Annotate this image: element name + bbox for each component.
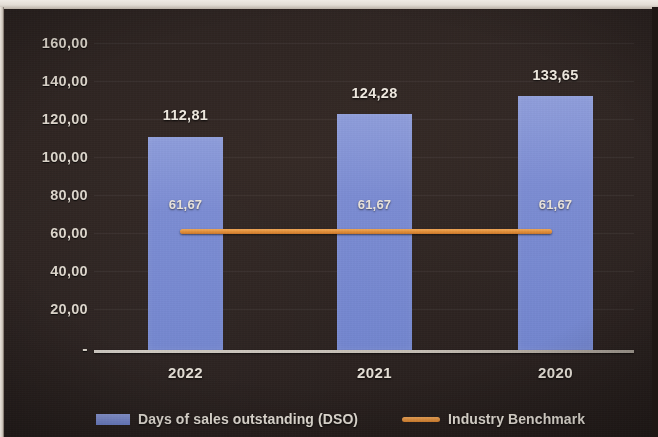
y-tick-60: 60,00 xyxy=(50,225,88,241)
y-tick-140: 140,00 xyxy=(42,73,88,89)
paper-edge-top xyxy=(0,0,658,9)
benchmark-value-2020: 61,67 xyxy=(539,197,573,212)
bar-2020[interactable] xyxy=(518,96,593,350)
industry-benchmark-line[interactable] xyxy=(180,229,552,234)
gridline-160 xyxy=(94,43,634,44)
legend-bar-swatch-icon xyxy=(96,414,130,425)
paper-edge-left xyxy=(0,7,4,437)
legend-item-benchmark[interactable]: Industry Benchmark xyxy=(402,411,585,427)
bar-value-2021: 124,28 xyxy=(351,85,397,101)
chart-screenshot: 160,00 140,00 120,00 100,00 80,00 60,00 … xyxy=(0,0,658,437)
x-tick-2021: 2021 xyxy=(357,364,392,381)
chart-plate: 160,00 140,00 120,00 100,00 80,00 60,00 … xyxy=(4,9,658,437)
plot-area: 160,00 140,00 120,00 100,00 80,00 60,00 … xyxy=(4,9,658,437)
x-tick-2022: 2022 xyxy=(168,364,203,381)
y-tick-100: 100,00 xyxy=(42,149,88,165)
bar-2022[interactable] xyxy=(148,137,223,350)
chart-legend: Days of sales outstanding (DSO) Industry… xyxy=(4,407,658,437)
legend-label-dso: Days of sales outstanding (DSO) xyxy=(138,411,358,427)
y-tick-120: 120,00 xyxy=(42,111,88,127)
y-tick-40: 40,00 xyxy=(50,263,88,279)
bar-value-2020: 133,65 xyxy=(532,67,578,83)
y-tick-80: 80,00 xyxy=(50,187,88,203)
y-axis-labels: 160,00 140,00 120,00 100,00 80,00 60,00 … xyxy=(10,9,88,437)
y-tick-20: 20,00 xyxy=(50,301,88,317)
paper-edge-right xyxy=(652,7,658,437)
benchmark-value-2021: 61,67 xyxy=(358,197,392,212)
legend-label-benchmark: Industry Benchmark xyxy=(448,411,585,427)
x-tick-2020: 2020 xyxy=(538,364,573,381)
y-tick-160: 160,00 xyxy=(42,35,88,51)
legend-line-swatch-icon xyxy=(402,417,440,422)
x-axis-line xyxy=(94,350,634,353)
bar-value-2022: 112,81 xyxy=(163,107,208,123)
legend-item-dso[interactable]: Days of sales outstanding (DSO) xyxy=(96,411,358,427)
y-tick-0: - xyxy=(82,340,88,358)
benchmark-value-2022: 61,67 xyxy=(169,197,203,212)
